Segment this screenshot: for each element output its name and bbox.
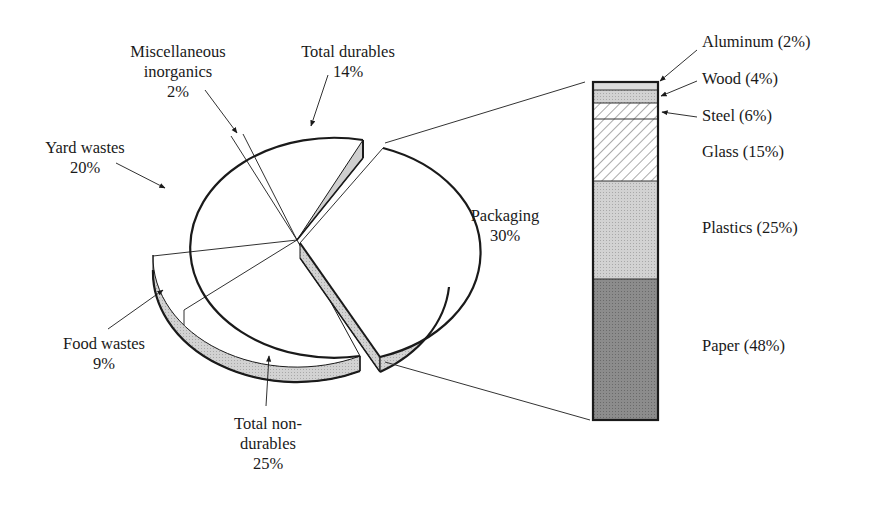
label-wood: Wood (4%) <box>702 69 778 89</box>
connector-top <box>385 82 585 143</box>
label-plastics: Plastics (25%) <box>702 218 798 238</box>
label-steel: Steel (6%) <box>702 106 772 126</box>
bar-segment-paper[interactable] <box>593 279 658 420</box>
arrow-food <box>108 290 163 329</box>
label-aluminum: Aluminum (2%) <box>702 32 811 52</box>
bar-segment-plastics[interactable] <box>593 181 658 279</box>
label-packaging: Packaging 30% <box>455 206 555 246</box>
label-paper: Paper (48%) <box>702 336 785 356</box>
arrow-aluminum <box>660 50 697 81</box>
bar-segment-glass[interactable] <box>593 119 658 181</box>
connector-bottom <box>385 362 590 420</box>
arrow-steel <box>662 112 697 117</box>
arrow-wood <box>661 81 697 96</box>
bar-segment-steel[interactable] <box>593 103 658 119</box>
label-misc-inorganics: Miscellaneous inorganics 2% <box>118 42 238 102</box>
label-food-wastes: Food wastes 9% <box>48 334 160 374</box>
arrow-durables <box>311 75 328 126</box>
label-total-durables: Total durables 14% <box>288 42 408 82</box>
label-yard-wastes: Yard wastes 20% <box>30 138 140 178</box>
label-glass: Glass (15%) <box>702 142 784 162</box>
bar-segment-wood[interactable] <box>593 90 658 103</box>
label-total-nondurables: Total non- durables 25% <box>218 414 318 474</box>
bar-segment-aluminum[interactable] <box>593 82 658 90</box>
packaging-breakdown-bar <box>593 82 658 420</box>
